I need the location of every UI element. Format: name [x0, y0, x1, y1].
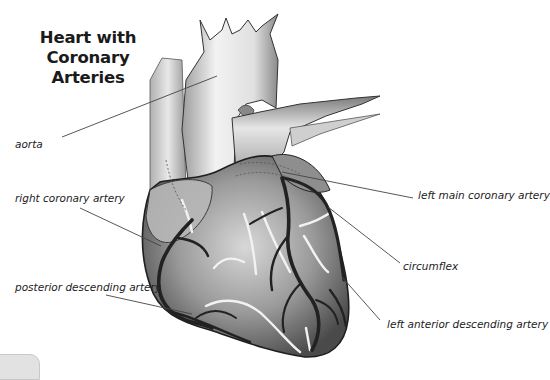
- corner-tab: [0, 354, 40, 380]
- label-posterior-descending-artery: posterior descending artery: [15, 281, 161, 293]
- label-aorta: aorta: [15, 138, 43, 150]
- label-circumflex: circumflex: [403, 260, 458, 272]
- label-left-anterior-descending-artery: left anterior descending artery: [387, 318, 548, 330]
- label-right-coronary-artery: right coronary artery: [15, 192, 125, 204]
- label-left-main-coronary-artery: left main coronary artery: [418, 189, 550, 201]
